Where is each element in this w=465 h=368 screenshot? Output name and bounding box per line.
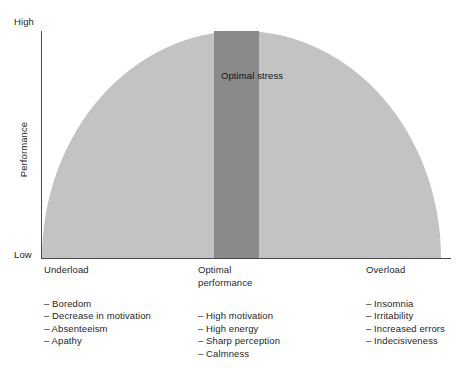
list-item: – Calmness [198, 348, 358, 361]
optimal-stress-band-fill [214, 31, 259, 258]
list-item: – Decrease in motivation [44, 310, 194, 323]
column-optimal-performance-heading: Optimal performance [198, 264, 358, 289]
list-item: – Indecisiveness [366, 335, 464, 348]
column-optimal-performance: Optimal performance – High motivation – … [198, 264, 358, 361]
list-item: – High motivation [198, 310, 358, 323]
y-axis-title: Performance [18, 105, 29, 195]
list-item: – Sharp perception [198, 335, 358, 348]
y-axis-high-label: High [14, 16, 34, 27]
optimal-stress-band [214, 31, 259, 258]
list-item: – Apathy [44, 335, 194, 348]
list-item: – Increased errors [366, 323, 464, 336]
list-item: – Boredom [44, 298, 194, 311]
x-axis-line [41, 258, 451, 259]
y-axis-low-label: Low [14, 249, 32, 260]
column-underload-heading: Underload [44, 264, 194, 277]
list-item: – High energy [198, 323, 358, 336]
column-overload-heading: Overload [366, 264, 464, 277]
column-underload: Underload – Boredom – Decrease in motiva… [44, 264, 194, 348]
optimal-stress-annotation: Optimal stress [221, 69, 283, 82]
stress-performance-curve-figure: High Low Performance Optimal stress Unde… [0, 0, 465, 368]
column-optimal-performance-list: – High motivation – High energy – Sharp … [198, 310, 358, 360]
list-item: – Absenteeism [44, 323, 194, 336]
plot-area [42, 31, 441, 258]
list-item: – Insomnia [366, 298, 464, 311]
column-overload-list: – Insomnia – Irritability – Increased er… [366, 298, 464, 348]
list-item: – Irritability [366, 310, 464, 323]
column-overload: Overload – Insomnia – Irritability – Inc… [366, 264, 464, 348]
column-underload-list: – Boredom – Decrease in motivation – Abs… [44, 298, 194, 348]
